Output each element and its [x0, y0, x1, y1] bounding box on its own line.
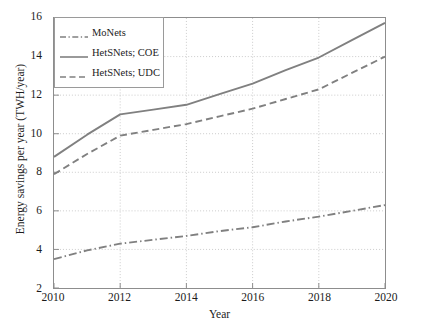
x-tick-label: 2012 [108, 292, 131, 304]
y-tick-label: 14 [31, 50, 43, 62]
x-tick-label: 2014 [175, 292, 198, 304]
y-tick-label: 6 [36, 206, 42, 218]
chart-figure: 246810121416 201020122014201620182020 Ye… [0, 0, 427, 330]
x-axis-tick-labels: 201020122014201620182020 [53, 292, 386, 308]
legend-item-label: HetSNets; COE [92, 48, 159, 59]
legend-item-label: MoNets [92, 28, 126, 39]
series-line-0 [54, 205, 385, 259]
y-tick-label: 4 [36, 244, 42, 256]
x-tick-label: 2016 [241, 292, 264, 304]
legend-item: MoNets [59, 23, 159, 43]
y-tick-label: 10 [31, 128, 43, 140]
y-tick-label: 12 [31, 89, 43, 101]
x-axis-title: Year [53, 308, 386, 320]
legend-line-sample-icon [59, 48, 89, 58]
legend-item: HetSNets; COE [59, 43, 159, 63]
x-tick-label: 2018 [308, 292, 331, 304]
y-axis-title: Energy savings per year (TWH/year) [14, 9, 26, 289]
legend-line-sample-icon [59, 28, 89, 38]
chart-legend: MoNetsHetSNets; COEHetSNets; UDC [54, 17, 164, 88]
legend-line-sample-icon [59, 68, 89, 78]
x-tick-label: 2010 [42, 292, 65, 304]
y-tick-label: 16 [31, 11, 43, 23]
legend-item-label: HetSNets; UDC [92, 68, 160, 79]
legend-item: HetSNets; UDC [59, 63, 159, 83]
y-tick-label: 8 [36, 167, 42, 179]
x-tick-label: 2020 [375, 292, 398, 304]
